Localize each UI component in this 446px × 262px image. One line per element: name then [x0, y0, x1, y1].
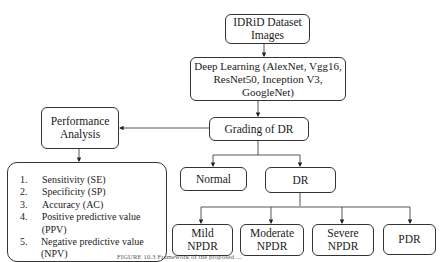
grading-node: Grading of DR: [209, 117, 309, 141]
metric-item: 1. Sensitivity (SE): [20, 174, 166, 186]
pdr-node: PDR: [383, 224, 436, 255]
dataset-node: IDRiD Dataset Images: [225, 14, 310, 44]
dataset-line-2: Images: [233, 29, 302, 42]
normal-label: Normal: [196, 173, 231, 186]
normal-node: Normal: [180, 167, 247, 191]
performance-line-2: Analysis: [51, 128, 110, 141]
deep-learning-line-2: ResNet50, Inception V3, GoogleNet): [191, 73, 345, 99]
grading-label: Grading of DR: [225, 123, 294, 136]
dr-node: DR: [265, 167, 336, 193]
figure-caption: FIGURE 10.3 Framework of the proposed ..…: [117, 253, 242, 260]
deep-learning-line-1: Deep Learning (AlexNet, Vgg16,: [191, 60, 345, 73]
performance-node: Performance Analysis: [41, 107, 119, 149]
performance-line-1: Performance: [51, 115, 110, 128]
mild-npdr-node: Mild NPDR: [172, 224, 233, 256]
metric-item: 4. Positive predictive value (PPV): [20, 211, 166, 236]
deep-learning-node: Deep Learning (AlexNet, Vgg16, ResNet50,…: [190, 57, 346, 101]
dataset-line-1: IDRiD Dataset: [233, 16, 302, 29]
metric-item: 3. Accuracy (AC): [20, 199, 166, 211]
metric-item: 2. Specificity (SP): [20, 186, 166, 198]
metrics-list: 1. Sensitivity (SE) 2. Specificity (SP) …: [7, 162, 167, 262]
severe-npdr-node: Severe NPDR: [312, 224, 374, 256]
moderate-npdr-node: Moderate NPDR: [240, 224, 304, 256]
dr-label: DR: [293, 174, 309, 187]
